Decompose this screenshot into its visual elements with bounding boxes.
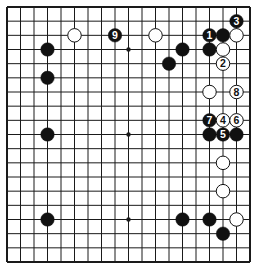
white-stone: [149, 29, 163, 43]
go-board-diagram: 913287465: [0, 0, 256, 270]
black-stone: [41, 128, 55, 142]
black-stone: [162, 57, 176, 71]
black-stone-9: 9: [108, 29, 122, 43]
move-number: 2: [220, 57, 226, 69]
white-stone-4: 4: [216, 114, 230, 128]
black-stone: [216, 227, 230, 241]
star-point: [126, 47, 130, 51]
black-stone-5: 5: [216, 128, 230, 142]
move-number: 8: [234, 86, 240, 98]
black-stone-1: 1: [203, 29, 217, 43]
black-stone: [230, 128, 244, 142]
white-stone: [230, 29, 244, 43]
move-number: 9: [112, 29, 118, 41]
black-stone-3: 3: [230, 14, 244, 28]
white-stone-2: 2: [216, 57, 230, 71]
move-number: 4: [220, 114, 226, 126]
star-point: [126, 217, 130, 221]
white-stone: [68, 29, 82, 43]
move-number: 1: [207, 29, 213, 41]
black-stone: [203, 128, 217, 142]
black-stone: [41, 213, 55, 227]
black-stone: [203, 43, 217, 57]
move-number: 5: [220, 128, 226, 140]
go-board: 913287465: [0, 0, 256, 270]
black-stone: [176, 43, 190, 57]
white-stone: [216, 184, 230, 198]
white-stone-6: 6: [230, 114, 244, 128]
move-number: 6: [234, 114, 240, 126]
star-point: [126, 132, 130, 136]
white-stone-8: 8: [230, 85, 244, 99]
black-stone: [176, 213, 190, 227]
black-stone: [41, 43, 55, 57]
move-number: 3: [234, 15, 240, 27]
white-stone: [216, 43, 230, 57]
white-stone: [230, 213, 244, 227]
move-number: 7: [207, 114, 213, 126]
black-stone: [216, 29, 230, 43]
black-stone-7: 7: [203, 114, 217, 128]
black-stone: [203, 213, 217, 227]
white-stone: [203, 85, 217, 99]
black-stone: [41, 71, 55, 85]
white-stone: [216, 156, 230, 170]
